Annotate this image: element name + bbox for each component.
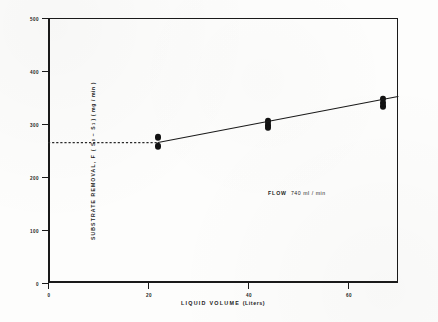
y-tick-label-0: 0 [36, 282, 39, 287]
y-tick-label-300: 300 [30, 123, 39, 128]
flow-annotation-value: 740 ml / min [291, 190, 326, 196]
y-tick-label-200: 200 [30, 176, 39, 181]
y-tick-100: 100 [42, 230, 48, 231]
x-tick-label-60: 60 [346, 293, 352, 298]
x-tick-label-20: 20 [146, 293, 152, 298]
data-point [380, 103, 386, 110]
x-tick-0: 0 [48, 283, 49, 289]
x-axis-title-main: LIQUID VOLUME [181, 300, 240, 306]
y-tick-500: 500 [42, 18, 48, 19]
x-axis-title: LIQUID VOLUME (Liters) [48, 300, 398, 306]
data-point [155, 134, 161, 141]
y-tick-label-400: 400 [30, 70, 39, 75]
y-axis-title-part2: − S [90, 125, 96, 139]
y-axis-title-units: ) ( mg / min ) [90, 82, 96, 123]
y-tick-label-500: 500 [30, 17, 39, 22]
y-axis-title-subscript-0: 0 [91, 139, 96, 141]
y-tick-400: 400 [42, 71, 48, 72]
x-tick-label-40: 40 [246, 293, 252, 298]
y-axis-title-part1: SUBSTRATE REMOVAL, F ( S [90, 141, 96, 240]
flow-annotation-label: FLOW [268, 190, 287, 196]
y-tick-300: 300 [42, 124, 48, 125]
x-tick-20: 20 [148, 283, 149, 289]
figure-scanned-chart: 0100200300400500 0204060 SUBSTRATE REMOV… [0, 0, 438, 322]
plot-area: 0100200300400500 0204060 [48, 18, 398, 283]
y-tick-label-100: 100 [30, 229, 39, 234]
data-point [155, 143, 161, 150]
y-tick-200: 200 [42, 177, 48, 178]
x-axis-title-units: (Liters) [243, 300, 265, 306]
x-tick-label-0: 0 [47, 293, 50, 298]
flow-annotation: FLOW740 ml / min [268, 190, 326, 196]
x-tick-60: 60 [348, 283, 349, 289]
x-tick-40: 40 [248, 283, 249, 289]
y-axis-title: SUBSTRATE REMOVAL, F ( S0 − S1 ) ( mg / … [90, 82, 97, 240]
data-point [265, 124, 271, 131]
